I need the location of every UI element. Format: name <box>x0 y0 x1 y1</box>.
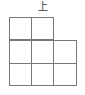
grid-cell <box>53 40 77 64</box>
grid-cell <box>9 63 32 86</box>
grid-cell <box>31 63 54 86</box>
grid-cell <box>9 40 32 64</box>
view-label: 上 <box>31 1 55 13</box>
grid-cell <box>31 17 54 40</box>
grid-cell <box>9 17 32 40</box>
grid-cell <box>53 63 77 86</box>
grid-cell <box>31 40 54 64</box>
